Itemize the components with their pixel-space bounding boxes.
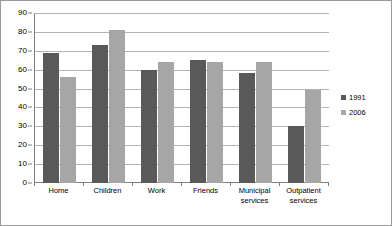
y-tick-label: 70 <box>18 47 27 55</box>
y-tick-label: 20 <box>18 141 27 149</box>
y-tick-mark <box>28 107 32 108</box>
x-tick-label: Municipalservices <box>230 186 279 206</box>
x-tick-mark <box>181 183 182 186</box>
y-tick-mark <box>28 50 32 51</box>
bar-1991-home <box>43 53 59 183</box>
legend-item-1991[interactable]: 1991 <box>341 94 387 102</box>
bar-2006-home <box>60 77 76 183</box>
legend-item-2006[interactable]: 2006 <box>341 109 387 117</box>
legend-label: 1991 <box>349 94 366 102</box>
bar-2006-children <box>109 30 125 183</box>
y-axis: 0102030405060708090 <box>1 13 32 183</box>
plot-area <box>34 13 329 183</box>
bar-group <box>43 13 76 183</box>
bar-group <box>190 13 223 183</box>
y-tick-mark <box>28 13 32 14</box>
y-tick-label: 80 <box>18 28 27 36</box>
legend-swatch-icon <box>341 110 346 115</box>
y-tick-label: 50 <box>18 85 27 93</box>
y-tick-mark <box>28 31 32 32</box>
x-axis: HomeChildrenWorkFriendsMunicipalservices… <box>34 186 329 220</box>
gridline <box>35 32 329 33</box>
x-tick-label: Friends <box>181 186 230 196</box>
y-tick-mark <box>28 126 32 127</box>
bar-1991-work <box>141 70 157 183</box>
legend-label: 2006 <box>349 109 366 117</box>
gridline <box>35 107 329 108</box>
gridline <box>35 126 329 127</box>
gridline <box>35 145 329 146</box>
y-tick-label: 30 <box>18 122 27 130</box>
y-tick-mark <box>28 145 32 146</box>
bar-group <box>92 13 125 183</box>
bar-1991-friends <box>190 60 206 183</box>
legend-swatch-icon <box>341 95 346 100</box>
gridline <box>35 164 329 165</box>
gridline <box>35 89 329 90</box>
y-tick-label: 40 <box>18 103 27 111</box>
y-tick-mark <box>28 164 32 165</box>
y-tick-label: 60 <box>18 66 27 74</box>
chart-legend: 19912006 <box>341 94 387 123</box>
y-tick-label: 90 <box>18 9 27 17</box>
x-tick-mark <box>83 183 84 186</box>
bar-2006-municipal-services <box>256 62 272 183</box>
bar-1991-municipal-services <box>239 73 255 183</box>
bar-group <box>288 13 321 183</box>
gridline <box>35 13 329 14</box>
x-tick-label: Work <box>132 186 181 196</box>
y-tick-mark <box>28 69 32 70</box>
bar-1991-children <box>92 45 108 183</box>
gridline <box>35 70 329 71</box>
gridline <box>35 182 329 183</box>
x-tick-mark <box>230 183 231 186</box>
x-tick-mark <box>132 183 133 186</box>
y-tick-mark <box>28 88 32 89</box>
x-tick-label: Children <box>83 186 132 196</box>
y-tick-label: 0 <box>23 179 27 187</box>
x-tick-mark <box>279 183 280 186</box>
bar-2006-friends <box>207 62 223 183</box>
x-tick-mark <box>328 183 329 186</box>
bar-group <box>141 13 174 183</box>
gridline <box>35 51 329 52</box>
x-tick-mark <box>34 183 35 186</box>
bar-group <box>239 13 272 183</box>
bar-1991-outpatient-services <box>288 126 304 183</box>
bar-2006-work <box>158 62 174 183</box>
x-tick-label: Outpatientservices <box>279 186 328 206</box>
y-tick-mark <box>28 183 32 184</box>
bar-chart-figure: 0102030405060708090 HomeChildrenWorkFrie… <box>0 0 392 226</box>
x-tick-label: Home <box>34 186 83 196</box>
bar-2006-outpatient-services <box>305 90 321 183</box>
y-tick-label: 10 <box>18 160 27 168</box>
